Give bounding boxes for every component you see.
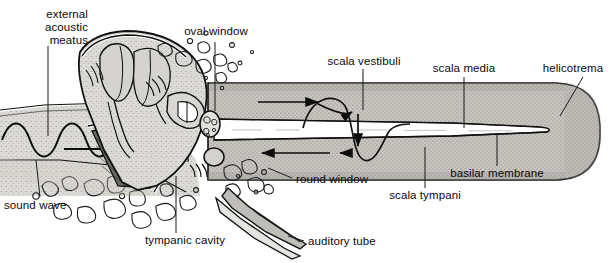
oval-window — [200, 111, 220, 137]
label-external-acoustic-meatus: external acoustic meatus — [0, 8, 88, 47]
diagram-canvas — [0, 0, 616, 263]
auditory-tube — [216, 188, 306, 259]
label-auditory-tube: auditory tube — [308, 235, 376, 248]
label-sound-wave: sound wave — [4, 199, 66, 212]
label-scala-tympani: scala tympani — [372, 189, 478, 202]
label-oval-window: oval window — [170, 25, 262, 38]
ear-anatomy-diagram: external acoustic meatus oval window sca… — [0, 0, 616, 263]
label-tympanic-cavity: tympanic cavity — [145, 234, 225, 247]
label-helicotrema: helicotrema — [530, 62, 616, 75]
label-basilar-membrane: basilar membrane — [436, 167, 558, 180]
label-scala-vestibuli: scala vestibuli — [312, 55, 416, 68]
label-scala-media: scala media — [418, 62, 510, 75]
label-round-window: round window — [296, 173, 368, 186]
